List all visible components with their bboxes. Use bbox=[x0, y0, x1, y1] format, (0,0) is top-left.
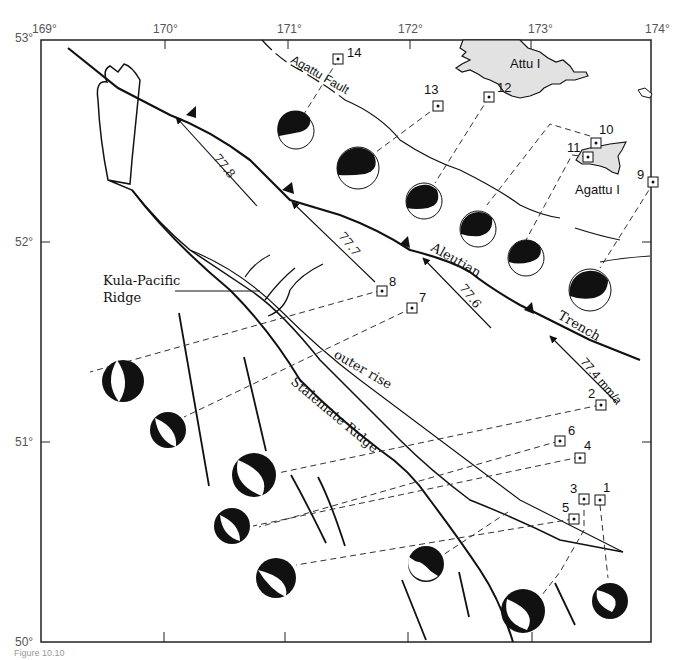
fossil-ridge-segment bbox=[268, 264, 323, 316]
beachball[interactable] bbox=[277, 110, 314, 149]
beachball[interactable] bbox=[501, 589, 545, 633]
beachball[interactable] bbox=[102, 360, 144, 402]
svg-text:9: 9 bbox=[637, 167, 644, 182]
svg-text:7: 7 bbox=[419, 290, 426, 305]
velocity-label-77-7: 77.7 bbox=[336, 229, 363, 259]
beachball[interactable] bbox=[337, 147, 379, 189]
beachball[interactable] bbox=[460, 211, 496, 247]
figure-caption: Figure 10.10 bbox=[14, 648, 65, 658]
velocity-label-77-6: 77.6 bbox=[457, 281, 484, 311]
velocity-label-77-8: 77.8 bbox=[211, 151, 238, 181]
event-marker-8[interactable]: 8 bbox=[377, 274, 396, 296]
event-marker-3[interactable]: 3 bbox=[570, 481, 589, 504]
lat-tick-50: 50° bbox=[15, 635, 33, 649]
lon-tick-172: 172° bbox=[398, 22, 423, 36]
lon-tick-174: 174° bbox=[645, 22, 670, 36]
svg-text:14: 14 bbox=[347, 45, 361, 60]
svg-text:12: 12 bbox=[497, 80, 511, 95]
outer-rise-label: outer rise bbox=[332, 347, 395, 392]
svg-text:11: 11 bbox=[567, 140, 581, 155]
fracture-line bbox=[402, 580, 426, 640]
agattu-label: Agattu I bbox=[575, 182, 620, 197]
beachball[interactable] bbox=[256, 558, 296, 598]
trench-barb bbox=[186, 106, 196, 118]
fracture-line bbox=[244, 357, 266, 451]
event-marker-1[interactable]: 1 bbox=[595, 480, 610, 505]
svg-text:2: 2 bbox=[588, 386, 595, 401]
lon-tick-169: 169° bbox=[32, 22, 57, 36]
small-island-east bbox=[638, 88, 652, 98]
lat-tick-53: 53° bbox=[15, 31, 33, 45]
lon-tick-170: 170° bbox=[153, 22, 178, 36]
beachball[interactable] bbox=[232, 453, 276, 497]
map-frame bbox=[41, 40, 651, 642]
fracture-line bbox=[555, 583, 575, 625]
lat-tick-51: 51° bbox=[15, 435, 33, 449]
svg-text:6: 6 bbox=[568, 423, 575, 438]
beachball[interactable] bbox=[569, 269, 611, 311]
svg-text:8: 8 bbox=[389, 274, 396, 289]
event-marker-14[interactable]: 14 bbox=[333, 45, 361, 64]
event-marker-6[interactable]: 6 bbox=[555, 423, 575, 446]
lon-tick-173: 173° bbox=[528, 22, 553, 36]
beachball[interactable] bbox=[214, 508, 250, 544]
kula-pacific-label-line2: Ridge bbox=[103, 290, 142, 305]
event-marker-13[interactable]: 13 bbox=[424, 82, 443, 111]
latitude-axis: 53° 52° 51° 50° bbox=[15, 31, 651, 649]
svg-text:4: 4 bbox=[584, 438, 591, 453]
trench-barb bbox=[282, 182, 294, 194]
lat-tick-52: 52° bbox=[15, 235, 33, 249]
beachball[interactable] bbox=[406, 183, 442, 219]
event-marker-4[interactable]: 4 bbox=[575, 438, 591, 463]
aleutian-trench bbox=[68, 48, 640, 360]
svg-text:1: 1 bbox=[603, 480, 610, 495]
svg-text:13: 13 bbox=[424, 82, 438, 97]
kula-pacific-label-line1: Kula-Pacific bbox=[103, 273, 180, 288]
beachball[interactable] bbox=[592, 583, 628, 619]
fracture-line bbox=[179, 313, 209, 486]
beachball[interactable] bbox=[508, 240, 544, 276]
fracture-line bbox=[291, 475, 326, 543]
event-marker-9[interactable]: 9 bbox=[637, 167, 658, 187]
event-marker-5[interactable]: 5 bbox=[562, 500, 579, 524]
fossil-ridge-segment bbox=[245, 255, 270, 277]
map-canvas: 169° 170° 171° 172° 173° 174° 53° 52° 51… bbox=[0, 0, 676, 660]
event-marker-7[interactable]: 7 bbox=[407, 290, 426, 313]
svg-text:5: 5 bbox=[562, 500, 569, 515]
fossil-ridge-segment bbox=[265, 268, 295, 300]
fracture-line bbox=[459, 572, 469, 617]
attu-label: Attu I bbox=[510, 56, 540, 71]
beachball[interactable] bbox=[408, 546, 444, 582]
kula-pacific-ridge-outline bbox=[97, 64, 623, 552]
beachball[interactable] bbox=[150, 412, 186, 448]
svg-text:10: 10 bbox=[599, 122, 613, 137]
svg-text:3: 3 bbox=[570, 481, 577, 496]
lon-tick-171: 171° bbox=[277, 22, 302, 36]
event-marker-12[interactable]: 12 bbox=[484, 80, 511, 102]
